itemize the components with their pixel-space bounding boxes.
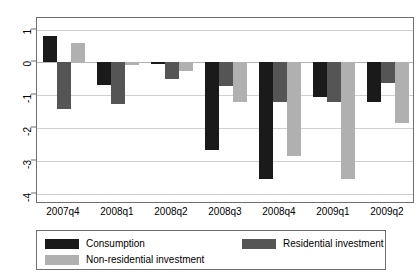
chart-legend: ConsumptionResidential investmentNon-res… <box>36 230 386 270</box>
bar-chart-figure: 10-1-2-3-4 2007q42008q12008q22008q32008q… <box>0 0 420 280</box>
y-axis-tick-label: -2 <box>23 127 34 136</box>
bar <box>57 62 71 108</box>
bar <box>111 62 125 103</box>
bar <box>395 62 409 123</box>
gridline-neg3 <box>37 161 413 162</box>
bar <box>259 62 273 179</box>
legend-label: Residential investment <box>283 239 384 249</box>
legend-entry: Consumption <box>45 237 145 251</box>
gridline-neg4 <box>37 194 413 195</box>
legend-swatch <box>45 239 79 249</box>
x-axis-tick-label: 2008q2 <box>154 206 187 217</box>
bar <box>97 62 111 85</box>
y-axis-tick-label: 0 <box>23 61 34 67</box>
bar <box>71 43 85 63</box>
legend-swatch <box>242 239 276 249</box>
gridline-neg1 <box>37 95 413 96</box>
gridline-1 <box>37 30 413 31</box>
bar <box>341 62 355 179</box>
legend-entry: Residential investment <box>242 237 384 251</box>
x-axis-tick-label: 2009q2 <box>370 206 403 217</box>
bar <box>165 62 179 78</box>
bar <box>367 62 381 102</box>
bar <box>381 62 395 82</box>
x-axis: 2007q42008q12008q22008q32008q42009q12009… <box>36 204 414 222</box>
gridline-neg2 <box>37 128 413 129</box>
bar <box>219 62 233 86</box>
legend-swatch <box>45 255 79 265</box>
x-axis-tick-label: 2007q4 <box>46 206 79 217</box>
plot-area <box>36 17 414 203</box>
y-axis-tick-label: -3 <box>23 160 34 169</box>
bar <box>273 62 287 102</box>
bar <box>233 62 247 102</box>
x-axis-tick-label: 2008q3 <box>208 206 241 217</box>
bar <box>205 62 219 149</box>
bar <box>179 62 193 70</box>
bar <box>327 62 341 102</box>
bar <box>43 36 57 62</box>
y-axis-tick-label: -4 <box>23 193 34 202</box>
x-axis-tick-label: 2008q4 <box>262 206 295 217</box>
bar <box>125 62 139 65</box>
y-axis-tick-label: -1 <box>23 94 34 103</box>
bar <box>313 62 327 97</box>
bar <box>287 62 301 156</box>
x-axis-tick-label: 2008q1 <box>100 206 133 217</box>
y-axis-tick-label: 1 <box>23 29 34 35</box>
legend-label: Non-residential investment <box>86 255 204 265</box>
y-axis: 10-1-2-3-4 <box>0 17 36 203</box>
bar <box>151 62 165 64</box>
x-axis-tick-label: 2009q1 <box>316 206 349 217</box>
legend-label: Consumption <box>86 239 145 249</box>
legend-entry: Non-residential investment <box>45 253 204 267</box>
